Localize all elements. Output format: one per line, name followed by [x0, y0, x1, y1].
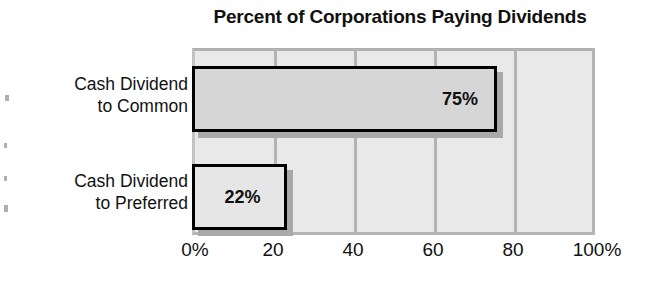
scan-artifact-2 — [4, 143, 7, 148]
x-tick-label-60: 60 — [422, 239, 443, 261]
bar-cash-dividend-to-preferred[interactable]: 22% — [192, 164, 287, 230]
gridline-80 — [514, 51, 517, 232]
category-label-cash-dividend-to-common: Cash Dividend to Common — [20, 73, 188, 118]
bar-value-label-preferred: 22% — [218, 188, 260, 206]
x-tick-label-40: 40 — [342, 239, 363, 261]
category-label-preferred-line1: Cash Dividend — [20, 170, 188, 192]
scan-artifact-3 — [4, 176, 7, 181]
category-label-common-line1: Cash Dividend — [20, 73, 188, 95]
x-tick-label-80: 80 — [502, 239, 523, 261]
category-label-cash-dividend-to-preferred: Cash Dividend to Preferred — [20, 170, 188, 215]
x-tick-label-20: 20 — [262, 239, 283, 261]
category-label-common-line2: to Common — [20, 95, 188, 117]
scan-artifact-4 — [4, 205, 8, 212]
chart-title: Percent of Corporations Paying Dividends — [180, 6, 620, 28]
scan-artifact-1 — [5, 95, 9, 101]
category-label-preferred-line2: to Preferred — [20, 192, 188, 214]
x-tick-label-100: 100% — [573, 239, 622, 261]
bar-cash-dividend-to-common[interactable]: 75% — [192, 66, 497, 132]
bar-value-label-common: 75% — [442, 90, 494, 108]
bar-chart-figure: Percent of Corporations Paying Dividends… — [0, 0, 655, 283]
x-tick-label-0: 0% — [181, 239, 208, 261]
x-axis-tick-labels: 0% 20 40 60 80 100% — [0, 239, 655, 273]
